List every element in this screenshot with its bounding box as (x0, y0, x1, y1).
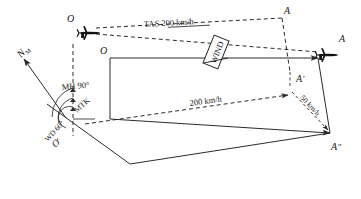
wind-speed-label: 50 km/h (299, 93, 323, 117)
north-magnetic-label-group: N M (14, 42, 33, 61)
point-a-double-group: A ″ (330, 141, 342, 152)
tas-label-group: TAS 200 km/h (144, 16, 210, 29)
wind-speed-label-group: 50 km/h (299, 93, 323, 117)
point-a-prime-mark: ′ (303, 74, 305, 84)
point-a-double-label: A (330, 141, 338, 152)
point-a-right-label: A (338, 33, 346, 44)
magnetic-heading-label-group: MH 90° (61, 80, 90, 92)
origin-top-label: O (67, 13, 74, 24)
ground-speed-label: 200 km/h (189, 93, 223, 108)
wind-box: WIND (203, 35, 229, 69)
navigation-triangle-diagram: WIND N M O O O (0, 0, 361, 199)
figure-canvas: WIND N M O O O (0, 0, 361, 199)
magnetic-track-label-group: MTK (72, 96, 91, 115)
point-a-top-label: A (283, 5, 291, 16)
point-a-prime-group: A ′ (295, 73, 305, 84)
magnetic-heading-label: MH 90° (61, 80, 90, 92)
ground-speed-dashed-vector (85, 95, 288, 124)
point-a-double-mark: ″ (338, 142, 342, 152)
lower-solid-edge (130, 133, 330, 164)
ground-speed-label-group: 200 km/h (189, 93, 223, 108)
a-top-to-a-prime-dashed (282, 18, 290, 72)
magnetic-track-label: MTK (72, 96, 91, 115)
tas-vector-dashed (96, 34, 318, 52)
ground-vector-solid (110, 119, 330, 133)
origin-mid-label: O (100, 45, 107, 56)
point-a-prime-label: A (295, 73, 303, 84)
